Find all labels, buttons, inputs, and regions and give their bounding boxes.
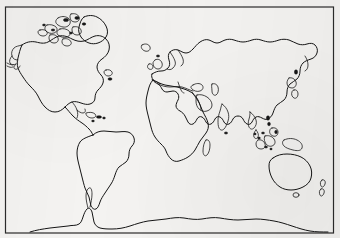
south-america-coastline: [77, 131, 134, 209]
map-page: [0, 0, 340, 238]
north-america-coastline: [17, 36, 109, 112]
sri-lanka: [224, 132, 227, 134]
new-zealand-islands: [319, 180, 325, 196]
australia-coastline: [269, 154, 312, 190]
iceland-coastline: [141, 44, 150, 51]
greenland-coastline: [79, 16, 108, 44]
newfoundland-islands: [104, 70, 112, 81]
antarctica-coastline: [30, 208, 328, 232]
map-border-frame: [6, 7, 334, 233]
madagascar: [203, 140, 210, 156]
new-guinea-coastline: [283, 139, 303, 151]
eurasia-coastline: [152, 39, 318, 124]
caribbean-islands: [86, 112, 105, 122]
tasmania: [293, 193, 299, 198]
world-map: [0, 0, 340, 238]
black-sea-outline: [191, 84, 203, 92]
yucatan-peninsula: [77, 109, 85, 113]
indochina-indonesia: [248, 112, 278, 150]
caspian-sea-outline: [212, 84, 219, 96]
japan-islands: [287, 70, 298, 98]
kamchatka-peninsula: [305, 56, 308, 71]
map-caption: [0, 232, 340, 238]
british-isles-coastline: [148, 55, 163, 69]
landmasses: [7, 14, 328, 232]
arabian-peninsula-coastline: [196, 95, 212, 112]
